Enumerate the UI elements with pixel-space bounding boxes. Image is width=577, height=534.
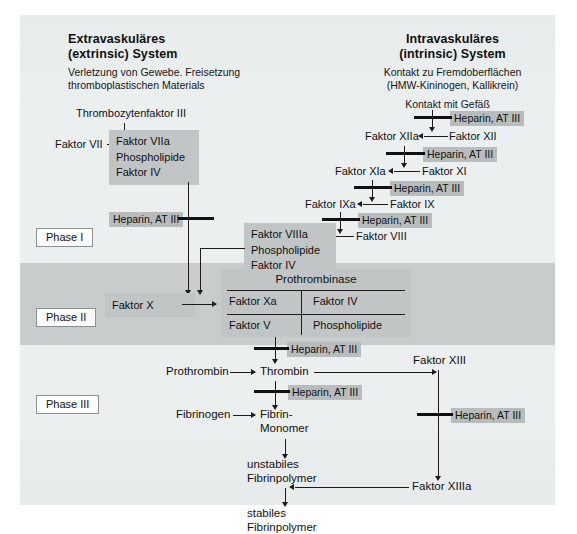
extrinsic-title-line2: (extrinsic) System: [68, 47, 177, 62]
fibrinogen-label: Fibrinogen: [176, 408, 230, 421]
xiii-inhibitor-bar: [417, 413, 453, 416]
faktor-xiii-label: Faktor XIII: [413, 354, 466, 367]
inhibitor-arrowhead-4: [337, 229, 343, 234]
prothrombinase-cell-faktor-xa: Faktor Xa: [229, 295, 277, 307]
heparin-at-iii-intrinsic-1: Heparin, AT III: [450, 111, 524, 126]
thrombin-inhibitor-bar: [254, 390, 290, 393]
unstable-polymer-line-2: Fibrinpolymer: [247, 472, 317, 485]
faktor-ix-label: Faktor IX: [390, 198, 435, 211]
prothrombinase-table: Prothrombinase Faktor Xa Faktor IV Fakto…: [221, 269, 411, 337]
extrinsic-tenase-line-3: Faktor IV: [116, 165, 192, 181]
xii-to-xiia-arrowhead: [418, 133, 423, 139]
xiiia-feedback-arrowhead: [289, 484, 294, 490]
faktor-xii-label: Faktor XII: [449, 130, 497, 143]
prothrombinase-row-separator-1: [227, 290, 405, 291]
intrinsic-subtitle-line1: Kontakt zu Fremdoberflächen: [350, 66, 555, 79]
extrinsic-title-line1: Extravaskuläres: [68, 32, 165, 47]
inhibitor-arrowhead-2: [401, 163, 407, 168]
prothrombinase-column-separator: [301, 290, 302, 335]
thrombin-down-line: [275, 381, 276, 407]
heparin-at-iii-extrinsic: Heparin, AT III: [109, 212, 183, 227]
extrinsic-tenase-down-line: [188, 182, 189, 292]
faktor-xia-label: Faktor XIa: [335, 165, 386, 178]
xiii-to-xiiia-line: [438, 370, 439, 479]
xi-to-xia-arrowhead: [388, 168, 393, 174]
heparin-at-iii-intrinsic-4: Heparin, AT III: [358, 213, 432, 228]
prothrombinase-down-arrowhead: [272, 359, 278, 364]
inhibitor-bar-2: [386, 152, 425, 155]
extrinsic-tenase-block: Faktor VIIa Phospholipide Faktor IV: [109, 130, 199, 185]
stable-polymer-line-1: stabiles: [247, 507, 286, 520]
intrinsic-tenase-line-1: Faktor VIIIa: [251, 227, 329, 243]
faktor-x-to-prothrombinase-arrowhead: [212, 301, 217, 307]
intrinsic-subtitle-line3: Kontakt mit Gefäß: [350, 98, 545, 111]
fibrinogen-to-fibrin-arrowhead: [251, 412, 256, 418]
coagulation-cascade-figure: Extravaskuläres (extrinsic) System Verle…: [20, 15, 555, 505]
intrinsic-tenase-elbow-h: [200, 248, 245, 249]
prothrombin-label: Prothrombin: [166, 365, 229, 378]
inhibitor-arrowhead-1: [429, 127, 435, 132]
thrombin-to-xiii-shaft: [314, 372, 436, 373]
extrinsic-tenase-line-1: Faktor VIIa: [116, 134, 192, 150]
intrinsic-tenase-elbow-v: [200, 248, 201, 292]
fibrin-monomer-line-2: Monomer: [260, 422, 309, 435]
heparin-at-iii-xiii: Heparin, AT III: [451, 408, 525, 423]
faktor-xiia-label: Faktor XIIa: [365, 130, 419, 143]
prothrombin-to-thrombin-arrowhead: [251, 369, 256, 375]
xiiia-feedback-shaft: [295, 487, 409, 488]
extrinsic-tenase-line-2: Phospholipide: [116, 150, 192, 166]
prothrombinase-cell-faktor-v: Faktor V: [229, 319, 271, 331]
stable-polymer-line-2: Fibrinpolymer: [247, 521, 317, 534]
faktor-x-to-prothrombinase-shaft: [182, 304, 216, 305]
thrombin-to-xiii-arrowhead: [432, 369, 437, 375]
ix-to-ixa-arrowhead: [357, 201, 362, 207]
phase-3-badge: Phase III: [36, 395, 99, 414]
prothrombinase-cell-faktor-iv: Faktor IV: [313, 295, 358, 307]
faktor-vii-label: Faktor VII: [55, 138, 103, 151]
faktor-ixa-label: Faktor IXa: [305, 198, 356, 211]
prothrombinase-title: Prothrombinase: [221, 269, 411, 289]
prothrombinase-row-separator-2: [227, 314, 405, 315]
extrinsic-subtitle-line2: thromboplastischen Materials: [68, 79, 205, 92]
intrinsic-tenase-elbow-arrowhead: [197, 290, 203, 295]
heparin-at-iii-phase2: Heparin, AT III: [287, 342, 361, 357]
intrinsic-tenase-line-2: Phospholipide: [251, 243, 329, 259]
xi-to-xia-shaft: [394, 171, 420, 172]
intrinsic-title-line1: Intravaskuläres: [370, 32, 535, 47]
heparin-at-iii-intrinsic-2: Heparin, AT III: [423, 147, 497, 162]
intrinsic-subtitle-line2: (HMW-Kininogen, Kallikrein): [350, 79, 555, 92]
faktor-xiiia-label: Faktor XIIIa: [412, 480, 471, 493]
intrinsic-title-line2: (intrinsic) System: [370, 47, 535, 62]
phase-1-badge: Phase I: [36, 228, 93, 247]
xii-to-xiia-shaft: [424, 136, 448, 137]
extrinsic-inhibitor-bar: [178, 217, 214, 220]
heparin-at-iii-intrinsic-3: Heparin, AT III: [390, 181, 464, 196]
faktor-xi-label: Faktor XI: [422, 165, 467, 178]
phase-2-badge: Phase II: [36, 308, 96, 327]
unstable-polymer-line-1: unstabiles: [247, 458, 299, 471]
inhibitor-arrowhead-3: [369, 197, 375, 202]
thrombozytenfaktor-iii-label: Thrombozytenfaktor III: [76, 107, 186, 120]
thrombin-label: Thrombin: [260, 365, 309, 378]
heparin-at-iii-thrombin: Heparin, AT III: [288, 385, 362, 400]
phase2-inhibitor-bar: [254, 347, 289, 350]
prothrombinase-cell-phospholipide: Phospholipide: [313, 319, 382, 331]
ix-to-ixa-shaft: [363, 204, 388, 205]
faktor-viii-label: Faktor VIII: [356, 230, 407, 243]
fibrin-monomer-line-1: Fibrin-: [260, 408, 293, 421]
extrinsic-inhibitor-cross: [188, 211, 189, 225]
extrinsic-subtitle-line1: Verletzung von Gewebe. Freisetzung: [68, 66, 240, 79]
